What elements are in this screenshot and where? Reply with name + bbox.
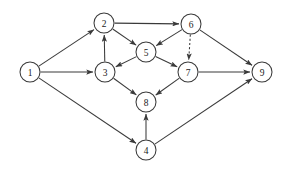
node-label-6: 6: [189, 20, 194, 30]
node-label-9: 9: [260, 68, 265, 78]
edge-6-to-7: [189, 35, 191, 60]
node-label-3: 3: [103, 68, 108, 78]
directed-graph: 123456789: [0, 0, 288, 171]
node-label-1: 1: [28, 68, 33, 78]
edge-7-to-8: [156, 78, 180, 95]
node-3[interactable]: 3: [95, 62, 115, 82]
node-label-5: 5: [144, 48, 149, 58]
diagram-canvas: 123456789: [0, 0, 288, 171]
edge-2-to-5: [113, 29, 136, 45]
edge-1-to-2: [39, 30, 94, 67]
node-label-2: 2: [102, 19, 107, 29]
edge-1-to-4: [39, 78, 136, 143]
node-8[interactable]: 8: [136, 92, 156, 112]
edge-2-to-6: [115, 23, 179, 24]
node-4[interactable]: 4: [136, 140, 156, 160]
node-7[interactable]: 7: [178, 62, 198, 82]
node-5[interactable]: 5: [136, 42, 156, 62]
edge-6-to-5: [156, 30, 182, 46]
edge-5-to-7: [156, 57, 178, 67]
edge-5-to-3: [116, 57, 137, 67]
node-label-8: 8: [144, 98, 149, 108]
node-6[interactable]: 6: [181, 14, 201, 34]
node-label-7: 7: [186, 68, 191, 78]
edges-layer: [39, 23, 252, 144]
node-1[interactable]: 1: [20, 62, 40, 82]
node-9[interactable]: 9: [252, 62, 272, 82]
edge-4-to-9: [155, 79, 252, 144]
edge-3-to-2: [104, 35, 105, 61]
edge-6-to-9: [200, 30, 252, 65]
node-2[interactable]: 2: [94, 13, 114, 33]
edge-3-to-8: [114, 78, 137, 95]
node-label-4: 4: [144, 146, 149, 156]
